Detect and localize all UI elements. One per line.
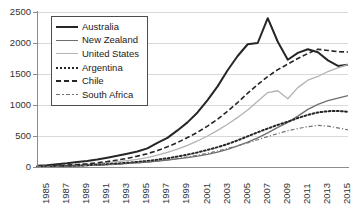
legend-item-australia: Australia (56, 20, 144, 34)
x-axis-label: 1997 (161, 183, 171, 204)
x-axis-label: 1985 (41, 183, 51, 204)
series-line-new-zealand (37, 96, 348, 167)
x-axis-label: 1995 (141, 183, 151, 204)
y-axis-label: 1000 (0, 100, 31, 110)
legend-item-chile: Chile (56, 74, 144, 88)
line-chart: 25002000150010005000 1985198719891991199… (0, 0, 354, 222)
legend-item-new-zealand: New Zealand (56, 34, 144, 48)
series-line-argentina (37, 111, 348, 167)
x-axis-label: 1999 (181, 183, 191, 204)
x-axis-label: 2009 (282, 183, 292, 204)
y-tick (33, 136, 37, 137)
y-tick (33, 12, 37, 13)
legend-swatch-united-states (56, 49, 78, 59)
legend-label-united-states: United States (82, 49, 139, 59)
x-axis-label: 2013 (322, 183, 332, 204)
x-axis-label: 2005 (242, 183, 252, 204)
legend-label-australia: Australia (82, 22, 119, 32)
x-axis-label: 2011 (302, 184, 312, 204)
x-axis-label: 2015 (342, 183, 352, 204)
x-axis-label: 1993 (121, 183, 131, 204)
legend-swatch-south-africa (56, 90, 78, 100)
y-tick (33, 43, 37, 44)
y-axis-label: 0 (0, 162, 31, 172)
y-axis-label: 1500 (0, 69, 31, 79)
x-axis-label: 2001 (202, 183, 212, 204)
legend-swatch-chile (56, 76, 78, 86)
x-axis-label: 1991 (101, 183, 111, 204)
y-axis-label: 2000 (0, 38, 31, 48)
y-tick (33, 105, 37, 106)
x-axis-label: 1987 (61, 183, 71, 204)
legend-label-new-zealand: New Zealand (82, 35, 138, 45)
x-axis-label: 1989 (81, 183, 91, 204)
y-tick (33, 167, 37, 168)
y-axis-label: 500 (0, 131, 31, 141)
legend: Australia New Zealand United States Arge… (51, 16, 148, 106)
legend-item-united-states: United States (56, 47, 144, 61)
legend-label-argentina: Argentina (82, 63, 123, 73)
x-axis-line (37, 167, 349, 168)
y-axis-label: 2500 (0, 7, 31, 17)
legend-label-south-africa: South Africa (82, 90, 133, 100)
y-axis-line (37, 11, 38, 168)
legend-swatch-australia (56, 22, 78, 32)
legend-swatch-new-zealand (56, 35, 78, 45)
legend-item-argentina: Argentina (56, 61, 144, 75)
y-tick (33, 74, 37, 75)
x-axis-label: 2003 (222, 183, 232, 204)
legend-swatch-argentina (56, 63, 78, 73)
legend-item-south-africa: South Africa (56, 88, 144, 102)
x-axis-label: 2007 (262, 183, 272, 204)
legend-label-chile: Chile (82, 76, 104, 86)
